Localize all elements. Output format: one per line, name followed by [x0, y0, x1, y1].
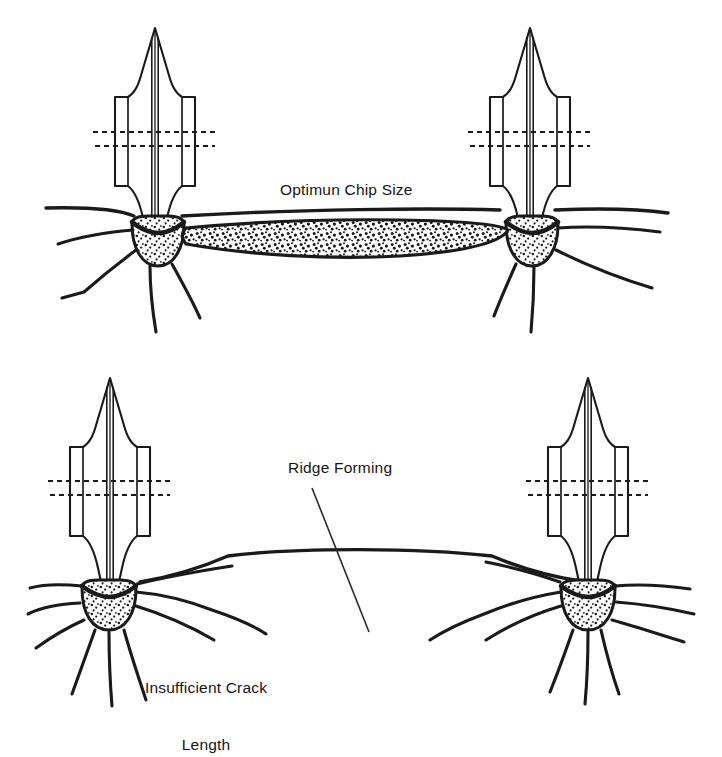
label-insufficient-crack-length: Insufficient Crack Length	[145, 640, 267, 757]
label-insufficient-crack-line2: Length	[145, 735, 267, 754]
label-insufficient-crack-line1: Insufficient Crack	[145, 678, 267, 697]
label-optimum-chip-size: Optimun Chip Size	[280, 181, 413, 199]
label-ridge-forming: Ridge Forming	[288, 459, 392, 477]
